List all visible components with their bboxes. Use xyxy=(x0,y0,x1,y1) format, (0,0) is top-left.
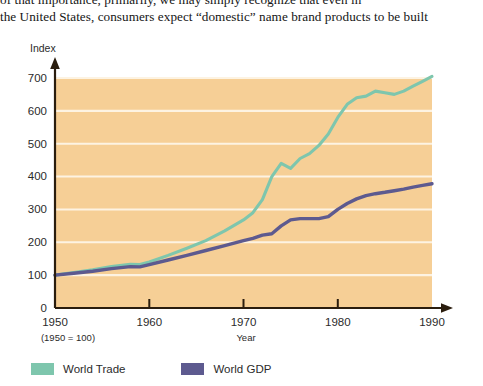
y-axis-title: Index xyxy=(30,42,56,54)
x-tick-labels: 1950 1960 1970 1980 1990 xyxy=(42,316,445,328)
legend-label-world-trade: World Trade xyxy=(63,363,125,375)
line-chart: Index 0 100 200 300 400 500 600 700 1950… xyxy=(0,34,483,352)
x-tick-label-1970: 1970 xyxy=(231,316,257,328)
y-tick-label-400: 400 xyxy=(28,170,47,182)
legend-swatch-world-trade xyxy=(31,363,54,375)
y-tick-label-600: 600 xyxy=(28,105,47,117)
y-tick-label-300: 300 xyxy=(28,203,47,215)
legend-item-world-gdp: World GDP xyxy=(181,363,271,375)
x-axis-title: Year xyxy=(236,332,255,343)
x-tick-label-1950: 1950 xyxy=(42,316,68,328)
y-tick-label-100: 100 xyxy=(28,269,47,281)
y-tick-label-700: 700 xyxy=(28,72,47,84)
base-year-note: (1950 = 100) xyxy=(41,332,95,343)
y-tick-label-0: 0 xyxy=(41,302,47,314)
figure-world-trade-vs-gdp: Index 0 100 200 300 400 500 600 700 1950… xyxy=(0,34,483,386)
x-axis-arrowhead xyxy=(441,303,453,313)
chart-legend: World Trade World GDP xyxy=(0,352,483,386)
x-tick-label-1990: 1990 xyxy=(419,316,445,328)
y-tick-labels: 0 100 200 300 400 500 600 700 xyxy=(28,72,47,314)
body-text-block: of that importance, primarily, we may si… xyxy=(0,0,483,34)
x-tick-label-1980: 1980 xyxy=(325,316,351,328)
body-text-line-clipped: of that importance, primarily, we may si… xyxy=(0,0,483,8)
legend-swatch-world-gdp xyxy=(181,363,204,375)
body-text-line: the United States, consumers expect “dom… xyxy=(0,8,483,25)
y-tick-label-200: 200 xyxy=(28,236,47,248)
y-tick-label-500: 500 xyxy=(28,138,47,150)
legend-item-world-trade: World Trade xyxy=(31,363,125,375)
y-axis-arrowhead xyxy=(50,57,60,69)
legend-label-world-gdp: World GDP xyxy=(213,363,271,375)
x-tick-label-1960: 1960 xyxy=(137,316,163,328)
